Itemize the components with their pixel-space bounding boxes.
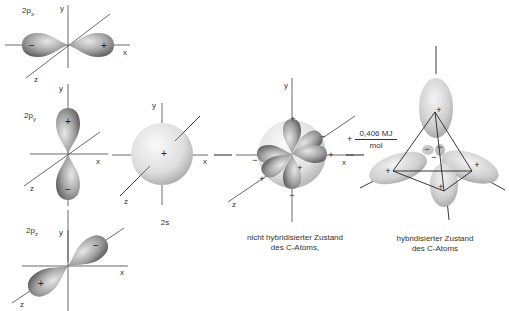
svg-text:+: + xyxy=(438,182,443,192)
axis-label-x: x xyxy=(203,157,207,166)
sp3-lobe-left xyxy=(365,145,431,190)
sp3-lobe-bottom xyxy=(430,163,458,207)
panel-2s xyxy=(112,103,208,205)
label-sub: x xyxy=(31,11,34,17)
px-lobe-positive xyxy=(68,33,114,57)
energy-denominator: mol xyxy=(355,140,397,150)
sign: + xyxy=(65,116,71,127)
svg-text:−: − xyxy=(289,190,294,200)
sign: − xyxy=(29,40,35,51)
axis-label-z: z xyxy=(34,75,38,84)
caption-line: hybridisierter Zustand xyxy=(380,234,490,244)
caption-hybridized: hybridisierter Zustand des C-Atoms xyxy=(380,234,490,254)
label-2pz: 2pz xyxy=(26,226,38,237)
energy-fraction: 0,406 MJ mol xyxy=(355,129,397,150)
pz-lobe-positive xyxy=(23,256,75,302)
sign: + xyxy=(161,148,167,159)
panel-unhybridized xyxy=(228,78,355,222)
svg-text:−: − xyxy=(424,144,429,154)
caption-unhybridized: nicht hybridisierter Zustand des C-Atoms… xyxy=(225,233,365,253)
caption-line: des C-Atoms xyxy=(380,244,490,254)
sign: + xyxy=(38,278,44,289)
label-sub: z xyxy=(35,231,38,237)
sign: + xyxy=(101,40,107,51)
svg-text:+: + xyxy=(436,105,441,115)
svg-text:+: + xyxy=(328,150,333,160)
svg-text:−: − xyxy=(431,152,436,162)
caption-line: des C-Atoms, xyxy=(225,243,365,253)
sign: − xyxy=(93,240,99,251)
axis-label-x: x xyxy=(120,268,124,277)
sign: − xyxy=(65,184,71,195)
energy-numerator: 0,406 MJ xyxy=(355,129,397,140)
svg-text:+: + xyxy=(385,166,390,176)
svg-text:+: + xyxy=(474,160,479,170)
axis-label-x: x xyxy=(96,157,100,166)
pz-lobe-negative xyxy=(61,230,113,276)
orbital-hybridization-diagram: − + + − − + + + − + − + + − + + + + − − … xyxy=(0,0,509,311)
axis-label-x: x xyxy=(342,158,346,167)
caption-line: nicht hybridisierter Zustand xyxy=(225,233,365,243)
axis-label-z: z xyxy=(232,200,236,209)
axis-label-x: x xyxy=(123,48,127,57)
axis-label-y: y xyxy=(60,4,64,13)
py-lobe-positive xyxy=(56,108,80,154)
axis-label-z: z xyxy=(124,197,128,206)
label-2py: 2py xyxy=(24,111,36,122)
axis-label-y: y xyxy=(59,228,63,237)
axis-label-y: y xyxy=(152,101,156,110)
svg-text:−: − xyxy=(320,131,325,141)
label-main: 2p xyxy=(24,111,33,120)
svg-text:+: + xyxy=(259,174,264,184)
caption-2s: 2s xyxy=(150,218,180,228)
energy-prefix: + xyxy=(347,134,352,144)
svg-text:+: + xyxy=(297,163,302,173)
label-main: 2p xyxy=(26,226,35,235)
svg-text:−: − xyxy=(437,142,442,152)
diagram-canvas: − + + − − + + + − + − + + − + + + + − − … xyxy=(0,0,509,311)
axis-label-z: z xyxy=(30,184,34,193)
label-sub: y xyxy=(33,116,36,122)
axis-label-y: y xyxy=(284,81,288,90)
svg-text:−: − xyxy=(252,155,257,165)
label-2px: 2px xyxy=(22,6,34,17)
label-main: 2p xyxy=(22,6,31,15)
axis-label-z: z xyxy=(20,300,24,309)
svg-text:+: + xyxy=(290,114,295,124)
axis-label-y: y xyxy=(59,84,63,93)
